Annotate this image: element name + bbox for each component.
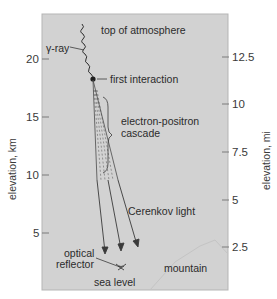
cerenkov-diagram: top of atmosphere γ-ray first interactio… [0, 0, 277, 299]
label-first-interaction: first interaction [110, 73, 178, 85]
right-tick-5: 5 [232, 194, 238, 206]
label-reflector: reflector [56, 258, 94, 270]
left-axis-title: elevation, km [6, 138, 18, 200]
label-sea-level: sea level [94, 276, 135, 288]
label-cascade-line2: cascade [121, 127, 160, 139]
label-cascade-line1: electron-positron [121, 115, 199, 127]
label-gamma-ray: γ-ray [46, 42, 69, 54]
label-top-of-atmosphere: top of atmosphere [101, 24, 186, 36]
left-tick-5: 5 [33, 227, 39, 239]
left-tick-20: 20 [26, 53, 39, 65]
label-mountain: mountain [164, 262, 207, 274]
left-tick-15: 15 [26, 111, 39, 123]
right-tick-10: 10 [232, 98, 245, 110]
label-cerenkov-light: Cerenkov light [128, 205, 195, 217]
right-tick-7-5: 7.5 [232, 146, 248, 158]
right-tick-12-5: 12.5 [232, 51, 254, 63]
right-tick-2-5: 2.5 [232, 241, 248, 253]
left-tick-10: 10 [26, 169, 39, 181]
right-axis-title: elevation, mi [260, 131, 272, 190]
